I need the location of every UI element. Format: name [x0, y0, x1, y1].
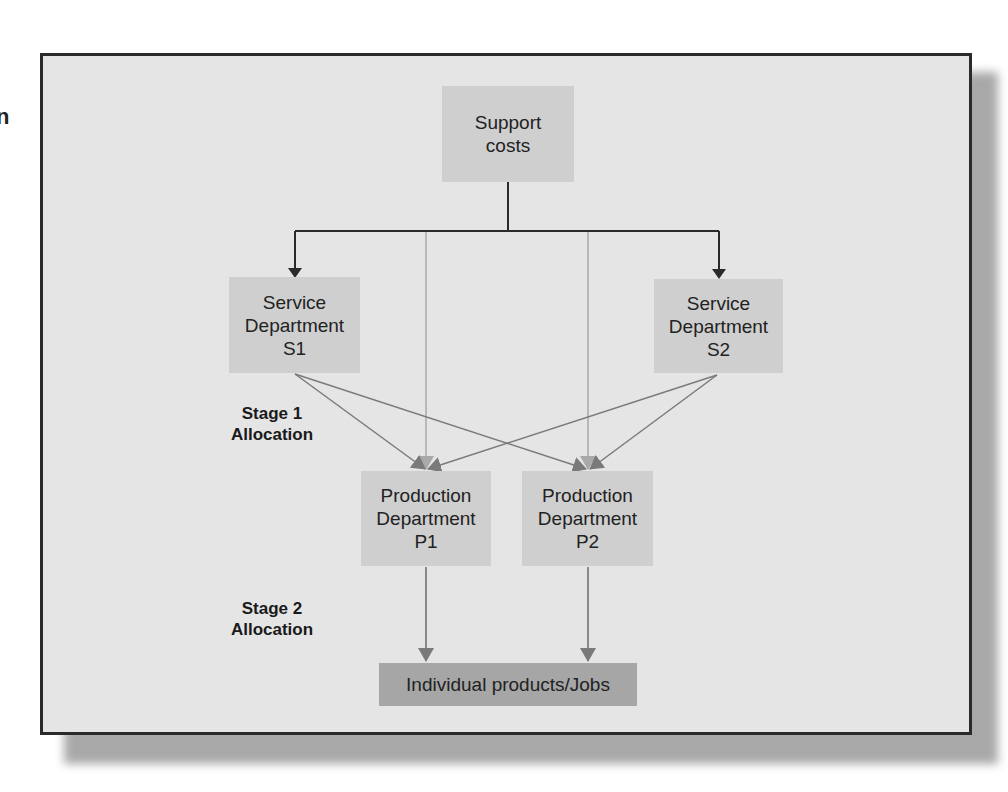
node-production-p1-label: Production Department P1	[376, 484, 475, 553]
node-support-costs-label: Support costs	[475, 111, 542, 157]
label-stage-1: Stage 1 Allocation	[222, 403, 322, 445]
node-production-p2-label: Production Department P2	[538, 484, 637, 553]
node-production-p2: Production Department P2	[522, 471, 653, 566]
node-service-s1: Service Department S1	[229, 277, 360, 373]
node-individual-products-label: Individual products/Jobs	[406, 673, 610, 696]
edge-s2-to-p1	[428, 375, 717, 469]
node-support-costs: Support costs	[442, 86, 574, 182]
node-service-s1-label: Service Department S1	[245, 291, 344, 360]
node-individual-products: Individual products/Jobs	[379, 663, 637, 706]
edge-s2-to-p2	[590, 375, 717, 469]
node-service-s2: Service Department S2	[654, 279, 783, 373]
edge-s1-to-p2	[295, 374, 586, 469]
node-service-s2-label: Service Department S2	[669, 292, 768, 361]
label-stage-2: Stage 2 Allocation	[222, 598, 322, 640]
node-production-p1: Production Department P1	[361, 471, 491, 566]
